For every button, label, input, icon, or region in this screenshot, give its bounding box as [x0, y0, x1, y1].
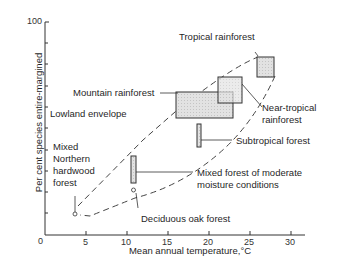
label-mountain-rainforest: Mountain rainforest	[73, 87, 154, 99]
subtropical-bar	[197, 124, 201, 147]
y-tick-100: 100	[27, 16, 42, 26]
deciduous-oak-point	[132, 188, 136, 192]
near-tropical-box	[218, 77, 242, 103]
y-axis	[45, 22, 49, 235]
x-tick-0: 0	[38, 236, 43, 246]
label-deciduous-oak: Deciduous oak forest	[141, 213, 230, 225]
x-tick-25: 25	[244, 237, 254, 247]
x-axis	[45, 231, 305, 235]
label-mixed-northern-2: Northern	[53, 153, 90, 165]
label-tropical-rainforest: Tropical rainforest	[179, 31, 255, 43]
label-mixed-northern-1: Mixed	[53, 141, 78, 153]
x-tick-30: 30	[285, 237, 295, 247]
mixed-moderate-bar	[131, 156, 136, 183]
x-tick-5: 5	[83, 237, 88, 247]
x-tick-10: 10	[121, 237, 131, 247]
x-tick-20: 20	[203, 237, 213, 247]
x-tick-15: 15	[162, 237, 172, 247]
mixed-northern-point	[73, 212, 77, 216]
label-near-tropical-2: rainforest	[262, 114, 302, 126]
label-mixed-northern-4: forest	[53, 177, 77, 189]
label-mixed-moderate-2: moisture conditions	[197, 179, 279, 191]
y-axis-label: Per cent species entire-margined	[33, 23, 44, 223]
label-lowland-envelope: Lowland envelope	[50, 108, 127, 120]
label-mixed-moderate-1: Mixed forest of moderate	[197, 167, 302, 179]
label-subtropical-forest: Subtropical forest	[236, 135, 310, 147]
tropical-rainforest-box	[257, 57, 274, 77]
label-mixed-northern-3: hardwood	[53, 165, 95, 177]
label-near-tropical-1: Near-tropical	[262, 102, 316, 114]
